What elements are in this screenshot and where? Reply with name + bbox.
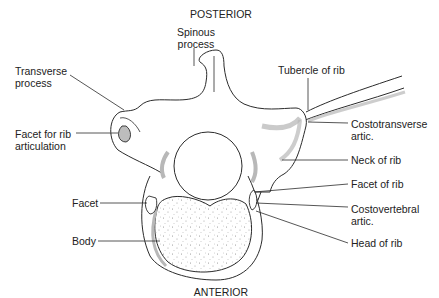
facet [145, 196, 156, 214]
facet-for-rib-articulation [119, 126, 131, 142]
label-tubercle-of-rib: Tubercle of rib [278, 64, 345, 76]
label-anterior: ANTERIOR [166, 286, 276, 298]
label-transverse-process: Transverse process [15, 65, 67, 89]
label-spinous-process: Spinous process [168, 26, 224, 50]
label-facet-for-rib-articulation: Facet for rib articulation [15, 128, 71, 152]
label-costotransverse-artic: Costotransverse artic. [351, 118, 427, 142]
label-body: Body [72, 235, 96, 247]
facet-right [249, 190, 257, 210]
label-neck-of-rib: Neck of rib [351, 154, 401, 166]
label-facet: Facet [72, 197, 98, 209]
label-posterior: POSTERIOR [166, 8, 276, 20]
label-facet-of-rib: Facet of rib [351, 178, 404, 190]
vertebral-foramen [174, 132, 242, 200]
label-costovertebral-artic: Costovertebral artic. [351, 203, 419, 227]
label-head-of-rib: Head of rib [351, 237, 402, 249]
vertebra-diagram: POSTERIOR Spinous process Transverse pro… [0, 0, 439, 298]
